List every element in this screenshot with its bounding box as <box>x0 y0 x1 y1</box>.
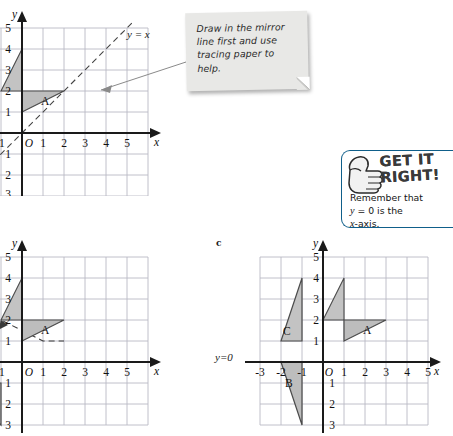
svg-text:3: 3 <box>5 293 11 305</box>
shape-label-a: A <box>41 95 50 107</box>
svg-text:5: 5 <box>5 22 11 34</box>
graph-b: x y 5 4 3 2 1 1 2 3 -1 O 1 2 3 4 5 A B <box>0 235 162 435</box>
svg-text:-1: -1 <box>0 137 5 149</box>
gir-line-3: x-axis. <box>350 217 423 230</box>
svg-text:1: 1 <box>313 335 319 347</box>
svg-text:3: 3 <box>383 366 389 378</box>
svg-text:-3: -3 <box>255 366 265 378</box>
svg-text:5: 5 <box>313 251 319 263</box>
get-it-right-title: GET IT RIGHT! <box>379 151 440 185</box>
svg-text:2: 2 <box>5 314 11 326</box>
y-axis-label-a: y <box>11 8 18 21</box>
svg-text:2: 2 <box>362 366 368 378</box>
mirror-line-label-c: y=0 <box>215 351 233 363</box>
svg-text:1: 1 <box>40 366 46 378</box>
svg-text:5: 5 <box>425 366 431 378</box>
svg-text:3: 3 <box>5 64 11 76</box>
svg-text:-1: -1 <box>297 366 307 378</box>
x-axis-label-b: x <box>153 365 160 377</box>
graph-c: x y 5 4 3 2 1 1 2 3 -3 -2 -1 O 1 2 3 4 5… <box>215 235 452 435</box>
svg-text:3: 3 <box>82 137 88 149</box>
hint-note-text: Draw in the mirror line first and use tr… <box>185 11 309 92</box>
svg-text:4: 4 <box>103 366 109 378</box>
svg-text:O: O <box>325 366 334 378</box>
y-axis-label-b: y <box>11 237 18 250</box>
svg-text:3: 3 <box>5 188 11 196</box>
gir-line-1: Remember that <box>350 191 423 204</box>
svg-text:O: O <box>25 366 34 378</box>
shape-label-c-c: C <box>283 325 291 337</box>
shape-label-a-b: A <box>41 324 50 336</box>
mirror-line-label-a: y = x <box>127 28 150 40</box>
svg-text:5: 5 <box>124 137 130 149</box>
svg-text:2: 2 <box>313 314 319 326</box>
svg-text:2: 2 <box>5 398 11 410</box>
svg-text:4: 4 <box>404 366 410 378</box>
hint-sticky-note: Draw in the mirror line first and use tr… <box>185 11 309 92</box>
shape-b-b <box>0 383 1 425</box>
gir-line-2: y = 0 is the <box>350 204 423 217</box>
svg-text:3: 3 <box>313 293 319 305</box>
svg-text:4: 4 <box>103 137 109 149</box>
svg-text:1: 1 <box>5 148 11 160</box>
svg-text:4: 4 <box>5 272 11 284</box>
svg-text:2: 2 <box>329 398 335 410</box>
svg-text:4: 4 <box>313 272 319 284</box>
svg-text:3: 3 <box>82 366 88 378</box>
svg-text:1: 1 <box>329 377 335 389</box>
y-axis-label-c: y <box>312 237 319 250</box>
svg-text:5: 5 <box>5 251 11 263</box>
svg-text:2: 2 <box>5 85 11 97</box>
svg-text:5: 5 <box>124 366 130 378</box>
graph-letter-c: c <box>216 238 221 248</box>
x-axis-label-c: x <box>433 365 440 377</box>
svg-text:4: 4 <box>5 43 11 55</box>
svg-text:2: 2 <box>61 366 67 378</box>
get-it-right-box: GET IT RIGHT! Remember that y = 0 is the… <box>341 150 453 228</box>
svg-text:2: 2 <box>5 169 11 181</box>
shape-label-a-c: A <box>363 324 372 336</box>
svg-text:1: 1 <box>341 366 347 378</box>
note-pointer-arrow <box>88 58 188 100</box>
svg-text:-1: -1 <box>0 366 5 378</box>
svg-text:1: 1 <box>5 106 11 118</box>
svg-text:1: 1 <box>5 335 11 347</box>
svg-text:O: O <box>25 137 34 149</box>
svg-text:2: 2 <box>61 137 67 149</box>
svg-text:1: 1 <box>40 137 46 149</box>
svg-text:1: 1 <box>5 377 11 389</box>
svg-text:3: 3 <box>329 419 335 431</box>
note-corner-curl <box>297 77 310 90</box>
mirror-line-a <box>0 21 134 183</box>
x-axis-label-a: x <box>153 136 160 148</box>
get-it-right-text: Remember that y = 0 is the x-axis. <box>350 191 423 230</box>
shape-label-b-c: B <box>285 377 293 389</box>
svg-text:3: 3 <box>5 419 11 431</box>
